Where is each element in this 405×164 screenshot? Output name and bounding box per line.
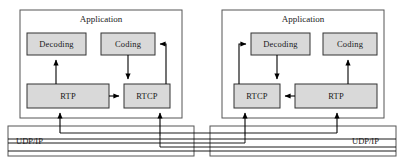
right-coding-box xyxy=(323,33,377,55)
left-udpip-label: UDP/IP xyxy=(16,136,43,146)
right-rtp-box xyxy=(295,84,377,108)
left-coding-box xyxy=(101,33,155,55)
right-application-label: Application xyxy=(222,14,384,24)
right-rtcp-box xyxy=(234,84,280,108)
right-decoding-box xyxy=(251,33,310,55)
left-rtp-box xyxy=(27,84,109,108)
diagram-canvas: Application Decoding Coding RTP RTCP UDP… xyxy=(0,0,405,164)
right-udpip-label: UDP/IP xyxy=(352,136,379,146)
left-application-label: Application xyxy=(20,14,182,24)
diagram-vector-layer xyxy=(0,0,405,164)
left-decoding-box xyxy=(27,33,86,55)
left-rtcp-box xyxy=(124,84,170,108)
